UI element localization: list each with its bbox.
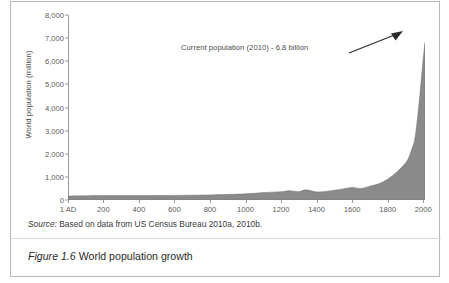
y-tick-label: 0 [60, 196, 64, 205]
source-text: Based on data from US Census Bureau 2010… [59, 219, 262, 229]
chart-area: World population (million) 01,0002,0003,… [11, 2, 441, 214]
x-tick-label: 1 AD [60, 205, 76, 214]
y-tick-label: 4,000 [45, 103, 64, 112]
x-tick-mark [246, 200, 247, 203]
x-tick-label: 1800 [379, 205, 396, 214]
x-tick-label: 800 [204, 205, 217, 214]
x-tick-mark [317, 200, 318, 203]
x-tick-mark [388, 200, 389, 203]
y-tick-label: 8,000 [45, 11, 64, 20]
x-tick-mark [139, 200, 140, 203]
y-tick-label: 7,000 [45, 34, 64, 43]
x-tick-label: 1000 [237, 205, 254, 214]
x-tick-label: 1200 [273, 205, 290, 214]
y-tick-label: 5,000 [45, 80, 64, 89]
x-tick-mark [281, 200, 282, 203]
x-tick-mark [174, 200, 175, 203]
area-path [68, 43, 425, 200]
x-tick-mark [423, 200, 424, 203]
x-tick-mark [103, 200, 104, 203]
x-tick-label: 400 [133, 205, 146, 214]
figure-number: Figure 1.6 [28, 250, 76, 262]
figure-container: World population (million) 01,0002,0003,… [10, 1, 440, 277]
x-tick-label: 600 [168, 205, 181, 214]
x-tick-label: 1400 [308, 205, 325, 214]
x-tick-label: 200 [97, 205, 110, 214]
x-tick-label: 1600 [344, 205, 361, 214]
caption-divider [11, 238, 441, 239]
y-tick-label: 1,000 [45, 172, 64, 181]
x-tick-mark [352, 200, 353, 203]
y-tick-label: 2,000 [45, 149, 64, 158]
y-axis-title: World population (million) [24, 20, 33, 170]
source-label: Source: [28, 219, 57, 229]
source-note: Source: Based on data from US Census Bur… [28, 219, 262, 229]
x-tick-mark [210, 200, 211, 203]
figure-caption: Figure 1.6World population growth [28, 250, 193, 262]
annotation-label: Current population (2010) - 6.8 billion [181, 43, 308, 52]
y-tick-label: 3,000 [45, 126, 64, 135]
x-tick-label: 2000 [415, 205, 432, 214]
x-tick-mark [68, 200, 69, 203]
figure-title: World population growth [79, 250, 193, 262]
y-tick-label: 6,000 [45, 57, 64, 66]
